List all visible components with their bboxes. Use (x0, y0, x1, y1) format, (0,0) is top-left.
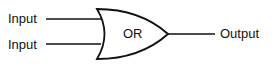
input-label-2: Input (8, 38, 37, 52)
or-gate-diagram: Input Input OR Output (0, 0, 274, 67)
output-label: Output (220, 27, 259, 41)
gate-label: OR (123, 27, 143, 41)
input-label-1: Input (8, 12, 37, 26)
